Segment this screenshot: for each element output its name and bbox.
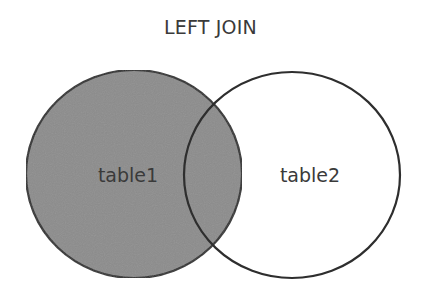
table1-label: table1 [98, 164, 158, 186]
venn-diagram: table1 table2 [0, 0, 421, 300]
table2-label: table2 [280, 164, 340, 186]
